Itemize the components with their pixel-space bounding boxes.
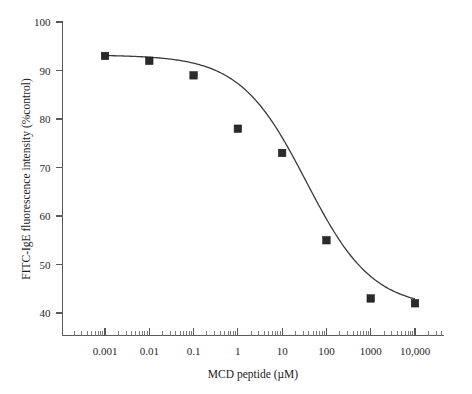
- x-tick-label: 0.1: [187, 345, 201, 357]
- data-point: [278, 149, 286, 157]
- data-point: [367, 295, 375, 303]
- y-tick-label: 100: [34, 16, 51, 28]
- x-tick-label: 100: [318, 345, 335, 357]
- x-tick-label: 1: [235, 345, 241, 357]
- x-tick-label: 0.01: [140, 345, 159, 357]
- y-tick-label: 70: [40, 162, 52, 174]
- data-point: [101, 52, 109, 60]
- y-axis-title: FITC-IgE fluorescence intensity (%contro…: [20, 78, 33, 280]
- data-point: [411, 300, 419, 308]
- dose-response-chart: 100908070605040 0.0010.010.1110100100010…: [0, 0, 472, 394]
- x-tick-label: 10: [277, 345, 289, 357]
- data-point: [234, 125, 242, 133]
- x-tick-label: 0.001: [93, 345, 118, 357]
- x-axis-title: MCD peptide (µM): [208, 368, 298, 381]
- x-tick-label: 1000: [360, 345, 383, 357]
- y-tick-label: 90: [40, 65, 52, 77]
- figure-container: 100908070605040 0.0010.010.1110100100010…: [0, 0, 472, 394]
- x-tick-label: 10,000: [400, 345, 431, 357]
- y-tick-label: 50: [40, 259, 52, 271]
- data-point: [323, 237, 331, 245]
- data-point: [190, 72, 198, 80]
- y-tick-label: 40: [40, 307, 52, 319]
- data-point: [146, 57, 154, 65]
- y-tick-label: 80: [40, 113, 52, 125]
- y-tick-label: 60: [40, 210, 52, 222]
